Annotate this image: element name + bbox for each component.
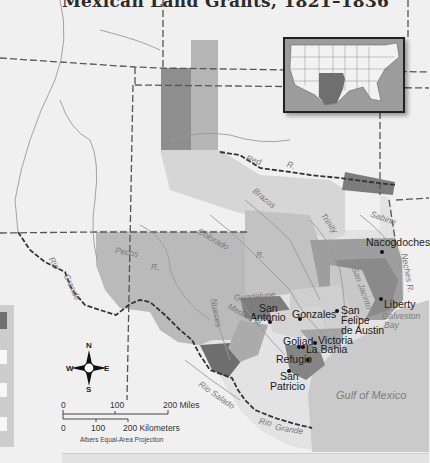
river-label-colorado-r: R. (256, 250, 265, 260)
city-dot (380, 250, 384, 254)
compass-s: S (86, 385, 91, 394)
scale-km-200: 200 Kilometers (123, 423, 180, 433)
city-dot (335, 309, 339, 313)
scale-km-0: 0 (61, 423, 66, 433)
city-dot (298, 317, 302, 321)
scale-km-100: 100 (91, 423, 105, 433)
legend-swatch-4 (0, 417, 7, 431)
map-title: Mexican Land Grants, 1821–1836 (62, 0, 389, 11)
projection-label: Albers Equal-Area Projection (80, 436, 163, 443)
inset-locator-map (283, 37, 405, 113)
legend-swatch-1 (0, 312, 7, 329)
river-label-rio-lower: Rio (258, 416, 272, 428)
city-dot (306, 358, 310, 362)
city-label: Liberty (384, 299, 416, 310)
compass-e: E (104, 364, 109, 373)
scale-miles-0: 0 (61, 400, 66, 410)
compass-n: N (86, 341, 92, 350)
river-label-bay: Bay (384, 320, 399, 330)
grant-panhandle-dark (161, 68, 191, 153)
scale-miles-100: 100 (110, 400, 124, 410)
compass-w: W (66, 364, 74, 373)
legend-swatch-2 (0, 350, 7, 364)
grant-panhandle-mid (191, 40, 218, 155)
city-label: La Bahia (306, 344, 347, 355)
city-label: Nacogdoches (366, 237, 430, 248)
gulf-of-mexico-label: Gulf of Mexico (336, 389, 406, 401)
inset-us-map-icon (285, 39, 403, 111)
bottom-panel-edge (62, 453, 429, 463)
city-dot (268, 320, 272, 324)
river-label-pecos-r: R. (151, 262, 160, 272)
city-label: Patricio (270, 381, 305, 392)
legend-swatch-3 (0, 383, 7, 397)
city-dot (379, 297, 383, 301)
city-dot (301, 345, 305, 349)
scale-miles-200: 200 Miles (163, 400, 199, 410)
